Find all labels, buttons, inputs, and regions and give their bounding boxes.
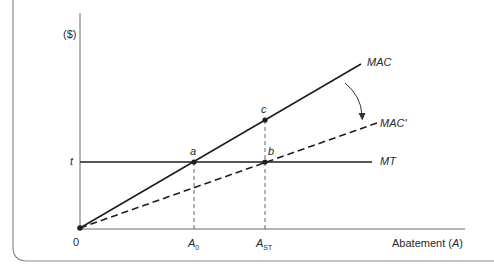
point-a-label: a	[190, 146, 196, 157]
mt-label: MT	[380, 156, 396, 167]
rotation-arrow-icon	[345, 83, 362, 115]
point-b	[262, 159, 267, 164]
frame-border	[13, 0, 494, 261]
point-c-label: c	[261, 104, 267, 115]
a0-tick-label: A0	[188, 238, 199, 251]
point-a	[191, 159, 196, 164]
x-axis-label: Abatement (A)	[392, 238, 463, 249]
mac-prime-line	[80, 123, 377, 228]
mac-label: MAC	[367, 57, 391, 68]
ast-sub: ST	[263, 244, 272, 251]
point-origin	[77, 225, 83, 231]
x-axis-label-close: )	[459, 237, 463, 249]
tax-label: t	[70, 156, 73, 167]
x-axis-label-text: Abatement (	[392, 237, 452, 249]
point-c	[262, 117, 267, 122]
a0-sub: 0	[195, 244, 199, 251]
mac-line	[80, 64, 361, 228]
ast-tick-label: AST	[256, 238, 272, 251]
point-b-label: b	[268, 146, 274, 157]
y-axis-label: ($)	[63, 29, 76, 40]
diagram-canvas	[0, 0, 494, 270]
mac-prime-label: MAC'	[380, 118, 407, 129]
origin-label: 0	[73, 237, 79, 248]
arrowhead-icon	[359, 113, 366, 121]
